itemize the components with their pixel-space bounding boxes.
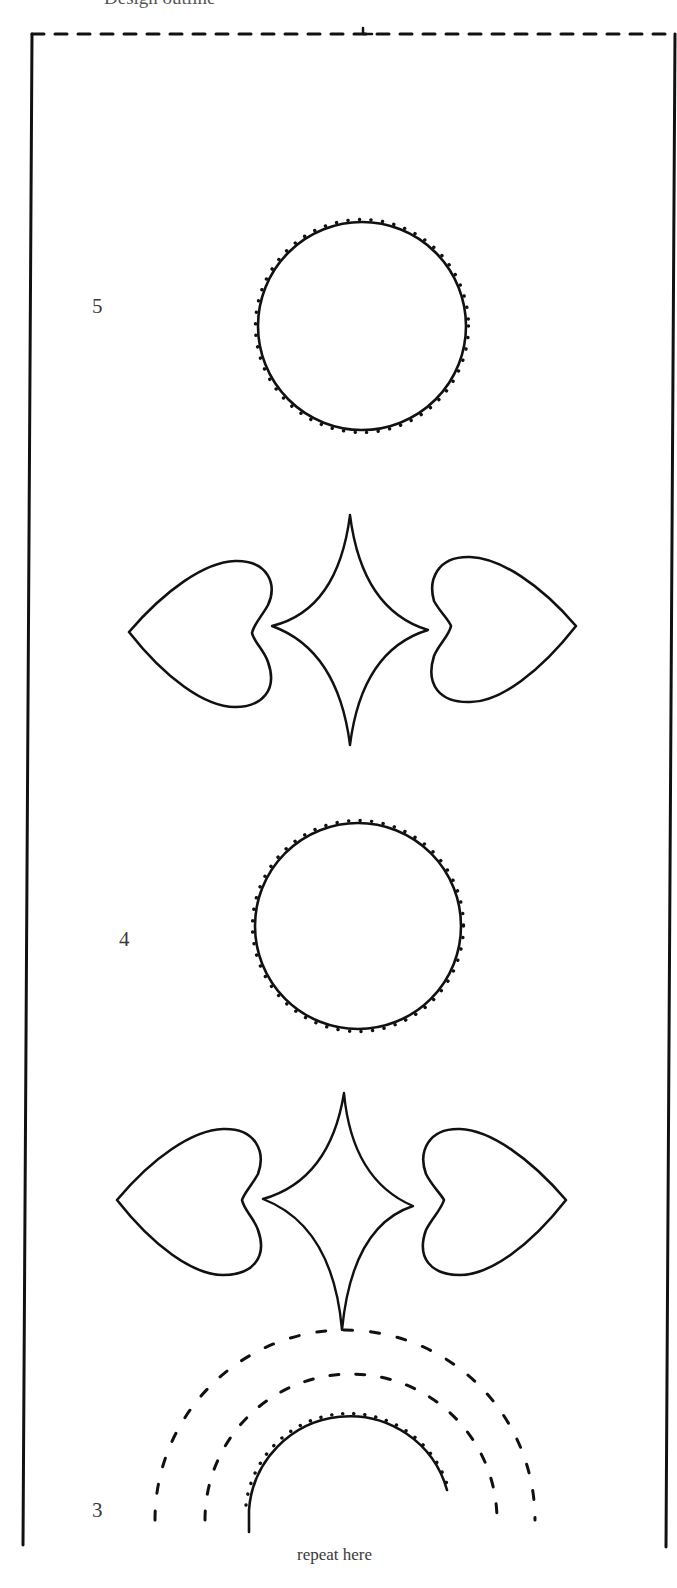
heart-right-shape <box>423 1129 566 1275</box>
left-edge <box>23 34 32 1545</box>
diagram-title: Design outline <box>104 0 215 7</box>
section-label-4: 4 <box>119 929 130 950</box>
pattern-drawing <box>0 0 677 1588</box>
heart-left-shape <box>129 561 272 707</box>
section-label-5: 5 <box>92 296 103 317</box>
design-outline-canvas: Design outline 5 4 3 repeat here <box>0 0 677 1588</box>
repeat-here-note: repeat here <box>297 1546 372 1563</box>
heart-star-motif-1 <box>129 515 576 745</box>
outer-dashed-arc <box>155 1330 535 1520</box>
stitched-circle-4 <box>253 821 464 1032</box>
section-3-arcs <box>155 1330 535 1532</box>
stitched-circle-5 <box>256 220 469 433</box>
center-mark <box>363 28 372 34</box>
pattern-border <box>23 28 675 1547</box>
inner-stitched-arc <box>249 1416 447 1532</box>
right-edge <box>666 34 675 1547</box>
heart-star-motif-2 <box>117 1093 566 1330</box>
section-label-3: 3 <box>92 1500 103 1521</box>
star-shape <box>272 515 428 745</box>
middle-dashed-arc <box>205 1374 497 1520</box>
heart-right-shape <box>431 557 576 702</box>
heart-left-shape <box>117 1129 261 1275</box>
star-shape <box>263 1093 413 1330</box>
inner-stitch-dots <box>246 1413 449 1505</box>
